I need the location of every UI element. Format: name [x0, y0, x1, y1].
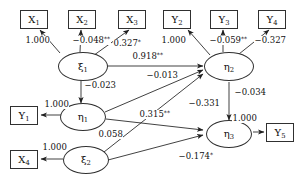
node-label-xi1: ξ1: [78, 62, 88, 72]
coef-value: 0.315: [140, 109, 164, 119]
coef-value: 0.918: [133, 51, 157, 61]
node-sub-y4: 4: [273, 18, 277, 26]
coef-value: 0.327: [114, 38, 138, 48]
coef-stars: **: [164, 109, 170, 116]
sem-path-diagram: X1 X2 X3 Y2 Y3 Y4 Y1 X4 Y5 ξ1 η1 ξ2 η2 η…: [0, 0, 302, 182]
coef-sign: −: [255, 35, 262, 45]
coef-value: 1.000: [162, 35, 186, 45]
node-sub-y5: 5: [281, 131, 285, 139]
node-sub-x2: 2: [83, 18, 87, 26]
coefficient-xi2-x4: 1.000: [42, 143, 67, 152]
node-box-y4[interactable]: Y4: [258, 10, 286, 29]
node-sub-y2: 2: [178, 18, 182, 26]
coef-value: 1.000: [233, 113, 257, 123]
node-label-eta1: η1: [78, 112, 88, 122]
coefficient-xi1-x2: −0.048**: [72, 36, 111, 45]
node-label-eta3: η3: [224, 129, 234, 139]
node-label-x2: X2: [76, 15, 87, 25]
node-box-x1[interactable]: X1: [20, 10, 48, 29]
coefficient-eta1-eta3-neg: −0.331: [188, 99, 220, 108]
coef-sign: −: [210, 35, 217, 45]
coef-sign: −: [85, 80, 92, 90]
node-label-xi2: ξ2: [81, 155, 91, 165]
node-label-eta2: η2: [224, 62, 234, 72]
coef-value: 1.000: [45, 99, 69, 109]
coef-value: 0.059: [217, 35, 241, 45]
coef-value: 0.013: [154, 70, 178, 80]
coef-stars: **: [157, 51, 163, 58]
node-sub-eta1: 1: [84, 116, 88, 124]
coef-value: 0.327: [262, 35, 286, 45]
coef-value: 0.331: [196, 98, 220, 108]
node-label-y5: Y5: [275, 128, 286, 138]
coefficient-eta2-y4: −0.327: [254, 36, 286, 45]
coef-sign: −: [147, 70, 154, 80]
coefficient-xi1-eta1: −0.023: [84, 81, 116, 90]
node-box-y5[interactable]: Y5: [266, 123, 294, 142]
node-box-y1[interactable]: Y1: [10, 106, 38, 125]
node-label-x3: X3: [126, 15, 137, 25]
node-box-y2[interactable]: Y2: [163, 10, 191, 29]
node-sub-x1: 1: [35, 18, 39, 26]
coefficient-eta2-y2: 1.000: [161, 36, 186, 45]
coefficient-eta3-y5: 1.000: [232, 114, 257, 123]
node-sub-eta3: 3: [230, 133, 234, 141]
coef-value: 1.000: [43, 142, 67, 152]
coef-stars: **: [241, 35, 247, 42]
coef-value: 1.000: [26, 35, 50, 45]
node-ellipse-xi1[interactable]: ξ1: [58, 52, 108, 81]
node-sub-x3: 3: [133, 18, 137, 26]
coefficient-xi2-eta3: −0.174*: [178, 152, 214, 161]
coefficient-eta1-eta3: 0.315**: [139, 110, 170, 119]
coef-value: 0.048: [80, 35, 104, 45]
coef-sign: −: [179, 151, 186, 161]
coef-sign: −: [189, 98, 196, 108]
coefficient-eta2-y3: −0.059**: [209, 36, 248, 45]
node-label-y2: Y2: [172, 15, 183, 25]
node-box-y3[interactable]: Y3: [210, 10, 238, 29]
node-box-x4[interactable]: X4: [10, 150, 38, 169]
coef-sign: −: [235, 87, 242, 97]
coefficient-xi1-eta2: 0.918**: [132, 52, 163, 61]
node-ellipse-eta3[interactable]: η3: [206, 120, 252, 148]
node-sub-xi2: 2: [87, 159, 91, 167]
node-sub-y3: 3: [225, 18, 229, 26]
coef-stars: *: [210, 151, 213, 158]
coef-stars: **: [104, 35, 110, 42]
node-ellipse-xi2[interactable]: ξ2: [63, 146, 109, 174]
coefficient-xi1-x1: 1.000: [25, 36, 50, 45]
node-label-y3: Y3: [219, 15, 230, 25]
node-label-y1: Y1: [19, 111, 30, 121]
node-label-x4: X4: [18, 155, 29, 165]
node-sub-eta2: 2: [230, 65, 234, 73]
coefficient-eta2-eta3: −0.034: [234, 88, 266, 97]
node-sub-y1: 1: [25, 114, 29, 122]
node-box-x3[interactable]: X3: [118, 10, 146, 29]
coef-sign: −: [73, 35, 80, 45]
node-ellipse-eta2[interactable]: η2: [204, 52, 254, 81]
coefficient-eta1-eta2: −0.013: [146, 71, 178, 80]
coef-stars: *: [138, 38, 141, 45]
node-label-y4: Y4: [267, 15, 278, 25]
coef-value: 0.034: [242, 87, 266, 97]
node-box-x2[interactable]: X2: [68, 10, 96, 29]
coef-value: 0.058: [99, 129, 123, 139]
node-label-x1: X1: [28, 15, 39, 25]
node-sub-x4: 4: [25, 158, 29, 166]
node-sub-xi1: 1: [84, 65, 88, 73]
coef-value: 0.023: [92, 80, 116, 90]
coefficient-xi1-x3: 0.327*: [113, 39, 141, 48]
coefficient-eta1-y1: 1.000: [44, 100, 69, 109]
coefficient-xi2-eta2: 0.058: [98, 130, 123, 139]
coef-value: 0.174: [186, 151, 210, 161]
